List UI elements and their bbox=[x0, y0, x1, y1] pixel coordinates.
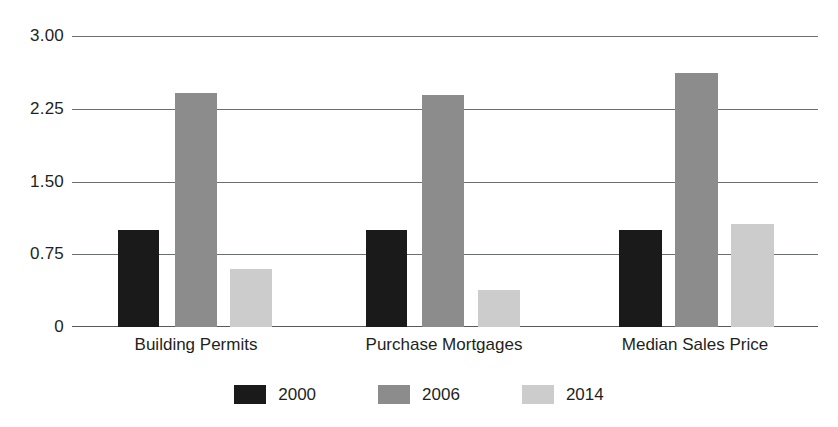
bar-median-sales-price-2014 bbox=[731, 224, 774, 327]
bar-chart: 3.00 2.25 1.50 0.75 0 Building Permits P… bbox=[0, 0, 838, 427]
legend-item-2006: 2006 bbox=[378, 385, 460, 404]
legend-item-2014: 2014 bbox=[522, 385, 604, 404]
y-tick-label-0-75: 0.75 bbox=[8, 245, 64, 262]
category-label-building-permits: Building Permits bbox=[72, 334, 320, 356]
gridline-3-00 bbox=[72, 36, 818, 37]
legend-swatch-2014-icon bbox=[522, 385, 554, 404]
bar-building-permits-2006 bbox=[175, 93, 217, 327]
y-tick-label-0: 0 bbox=[8, 318, 64, 335]
bar-purchase-mortgages-2000 bbox=[366, 230, 407, 327]
y-axis-labels: 3.00 2.25 1.50 0.75 0 bbox=[0, 36, 64, 327]
legend-swatch-2006-icon bbox=[378, 385, 410, 404]
legend-label-2006: 2006 bbox=[422, 385, 460, 404]
legend-label-2000: 2000 bbox=[278, 385, 316, 404]
bar-median-sales-price-2006 bbox=[675, 73, 718, 327]
category-label-median-sales-price: Median Sales Price bbox=[572, 334, 818, 356]
bar-building-permits-2000 bbox=[118, 230, 159, 327]
bar-building-permits-2014 bbox=[230, 269, 272, 327]
category-label-purchase-mortgages: Purchase Mortgages bbox=[320, 334, 568, 356]
chart-legend: 2000 2006 2014 bbox=[0, 380, 838, 408]
x-axis-category-labels: Building Permits Purchase Mortgages Medi… bbox=[72, 334, 818, 360]
legend-item-2000: 2000 bbox=[234, 385, 316, 404]
legend-label-2014: 2014 bbox=[566, 385, 604, 404]
bar-purchase-mortgages-2006 bbox=[422, 95, 464, 327]
bar-median-sales-price-2000 bbox=[619, 230, 662, 327]
bar-purchase-mortgages-2014 bbox=[478, 290, 520, 327]
plot-area bbox=[72, 36, 818, 327]
y-tick-label-3-00: 3.00 bbox=[8, 27, 64, 44]
legend-swatch-2000-icon bbox=[234, 385, 266, 404]
y-tick-label-2-25: 2.25 bbox=[8, 100, 64, 117]
y-tick-label-1-50: 1.50 bbox=[8, 173, 64, 190]
